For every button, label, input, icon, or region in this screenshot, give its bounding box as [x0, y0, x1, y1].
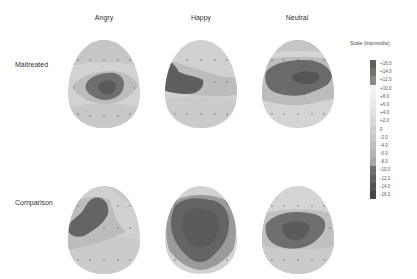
colorbar-label: -6.0	[380, 150, 391, 158]
topomap-comparison-angry	[66, 184, 142, 276]
colorbar-swatch	[370, 166, 376, 174]
colorbar-swatch	[370, 85, 376, 93]
colorbar-label: +10.0	[380, 85, 391, 93]
colorbar-swatch	[370, 76, 376, 84]
topomap-maltreated-angry	[66, 38, 142, 130]
colorbar-label: -16.0	[380, 191, 391, 199]
colorbar-swatch	[370, 134, 376, 142]
colorbar-swatch	[370, 60, 376, 68]
colorbar-swatch	[370, 183, 376, 191]
colorbar-swatch	[370, 117, 376, 125]
colorbar-swatch	[370, 142, 376, 150]
column-title-neutral: Neutral	[286, 14, 309, 21]
colorbar-label: -14.0	[380, 183, 391, 191]
colorbar-label: -12.0	[380, 175, 391, 183]
colorbar-label: +6.0	[380, 101, 391, 109]
colorbar-swatch	[370, 109, 376, 117]
colorbar-label: +8.0	[380, 93, 391, 101]
colorbar-swatch	[370, 175, 376, 183]
topomap-maltreated-happy	[163, 38, 239, 130]
colorbar-label: +4.0	[380, 109, 391, 117]
colorbar-swatch	[370, 126, 376, 134]
colorbar-label: -4.0	[380, 142, 391, 150]
colorbar-swatch	[370, 93, 376, 101]
colorbar	[370, 60, 376, 199]
row-label-maltreated: Maltreated	[15, 61, 48, 68]
colorbar-label: 0	[380, 126, 391, 134]
colorbar-label: +12.0	[380, 76, 391, 84]
colorbar-swatch	[370, 150, 376, 158]
colorbar-swatch	[370, 191, 376, 199]
topomap-maltreated-neutral	[260, 38, 336, 130]
colorbar-label: -8.0	[380, 158, 391, 166]
colorbar-swatch	[370, 158, 376, 166]
colorbar-label: +14.0	[380, 68, 391, 76]
column-title-happy: Happy	[191, 14, 211, 21]
row-label-comparison: Comparison	[15, 199, 53, 206]
topomap-comparison-happy	[163, 184, 239, 276]
colorbar-label: -10.0	[380, 166, 391, 174]
colorbar-swatch	[370, 68, 376, 76]
colorbar-label: -2.0	[380, 134, 391, 142]
colorbar-labels: +16.0 +14.0 +12.0 +10.0 +8.0 +6.0 +4.0 +…	[380, 60, 391, 199]
colorbar-label: +16.0	[380, 60, 391, 68]
colorbar-label: +2.0	[380, 117, 391, 125]
topomap-comparison-neutral	[260, 184, 336, 276]
column-title-angry: Angry	[95, 14, 113, 21]
colorbar-title: Scale (microvolts)	[350, 40, 390, 46]
colorbar-swatch	[370, 101, 376, 109]
